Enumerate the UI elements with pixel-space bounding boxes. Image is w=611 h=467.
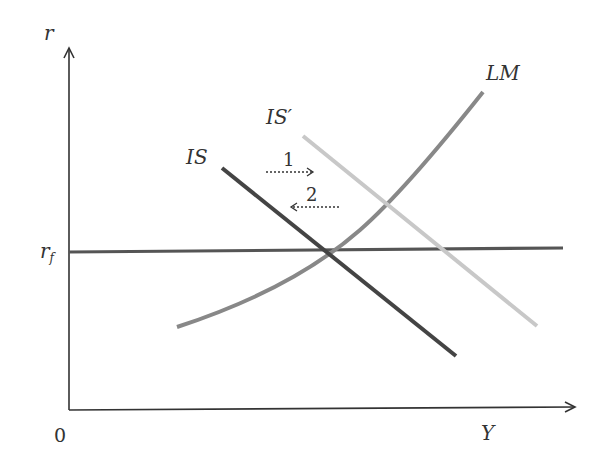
lm-label: LM — [485, 61, 520, 85]
is-prime-label: IS′ — [265, 105, 293, 129]
x-axis-label: Y — [481, 421, 496, 445]
is-prime-curve — [303, 136, 537, 326]
is-label: IS — [185, 145, 208, 169]
shift-arrow-2: 2 — [291, 184, 339, 207]
shift-arrow-1: 1 — [266, 149, 313, 172]
rf-line-group: rf — [40, 239, 563, 265]
origin-label: 0 — [54, 424, 66, 446]
arrow-2-label: 2 — [306, 184, 317, 205]
arrow-1-label: 1 — [283, 149, 294, 170]
lm-curve-group: LM — [177, 61, 520, 327]
is-prime-curve-group: IS′ — [265, 105, 537, 326]
rf-label: rf — [40, 239, 57, 265]
lm-curve — [177, 92, 483, 327]
y-axis-label: r — [44, 21, 55, 45]
is-curve — [222, 168, 456, 356]
rf-line — [69, 248, 563, 252]
islm-diagram: r Y 0 rf LM IS′ IS 1 2 — [0, 0, 611, 467]
x-axis — [69, 407, 575, 410]
